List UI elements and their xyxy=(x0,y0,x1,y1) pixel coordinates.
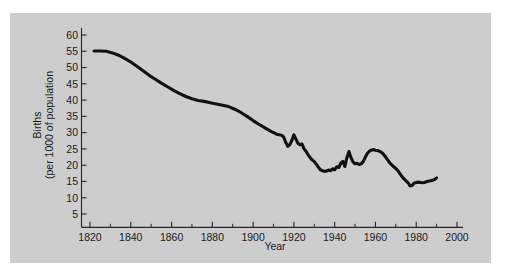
x-tick-label-1840: 1840 xyxy=(119,231,143,243)
y-tick-label-20: 20 xyxy=(66,159,78,171)
y-tick-label-25: 25 xyxy=(66,143,78,155)
x-tick-label-1880: 1880 xyxy=(201,231,225,243)
x-axis-title: Year xyxy=(264,240,286,252)
y-tick-label-5: 5 xyxy=(72,208,78,220)
y-tick-label-35: 35 xyxy=(66,110,78,122)
x-tick-label-1960: 1960 xyxy=(364,231,388,243)
axes-group xyxy=(82,28,464,228)
x-tick-label-1980: 1980 xyxy=(405,231,429,243)
x-tick-label-1820: 1820 xyxy=(78,231,102,243)
y-axis-title-line-1: Births xyxy=(31,112,43,139)
x-tick-label-1940: 1940 xyxy=(323,231,347,243)
y-tick-label-30: 30 xyxy=(66,126,78,138)
y-tick-label-60: 60 xyxy=(66,29,78,41)
y-tick-label-40: 40 xyxy=(66,94,78,106)
series-line-0 xyxy=(94,51,437,186)
y-tick-label-45: 45 xyxy=(66,78,78,90)
y-tick-label-10: 10 xyxy=(66,192,78,204)
data-series-group xyxy=(94,51,437,186)
x-tick-label-1920: 1920 xyxy=(282,231,306,243)
x-tick-label-1860: 1860 xyxy=(160,231,184,243)
y-axis-title-line-2: (per 1000 of population xyxy=(43,71,55,179)
chart-figure: 5101520253035404550556018201840186018801… xyxy=(0,0,507,277)
x-tick-label-1900: 1900 xyxy=(241,231,265,243)
y-tick-label-55: 55 xyxy=(66,45,78,57)
y-tick-label-50: 50 xyxy=(66,61,78,73)
chart-plot-area: 5101520253035404550556018201840186018801… xyxy=(0,0,507,277)
x-tick-label-2000: 2000 xyxy=(445,231,469,243)
y-tick-label-15: 15 xyxy=(66,175,78,187)
